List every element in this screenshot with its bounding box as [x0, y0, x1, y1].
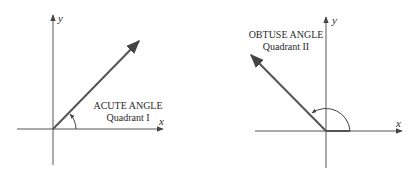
- terminal-ray: [251, 55, 326, 131]
- x-axis-label: x: [395, 117, 401, 129]
- x-axis-label: x: [158, 115, 164, 127]
- angle-diagrams: y x ACUTE ANGLE Quadrant I y x OBTUSE AN…: [0, 0, 419, 177]
- angle-quadrant: Quadrant I: [106, 112, 149, 123]
- angle-arc: [70, 114, 76, 129]
- y-axis-label: y: [331, 14, 337, 26]
- angle-title: ACUTE ANGLE: [93, 100, 162, 111]
- angle-title: OBTUSE ANGLE: [249, 29, 324, 40]
- angle-quadrant: Quadrant II: [263, 41, 309, 52]
- y-axis-label: y: [57, 12, 63, 24]
- angle-arc: [312, 108, 350, 131]
- acute-angle-diagram: y x ACUTE ANGLE Quadrant I: [17, 12, 164, 165]
- obtuse-angle-diagram: y x OBTUSE ANGLE Quadrant II: [249, 14, 402, 168]
